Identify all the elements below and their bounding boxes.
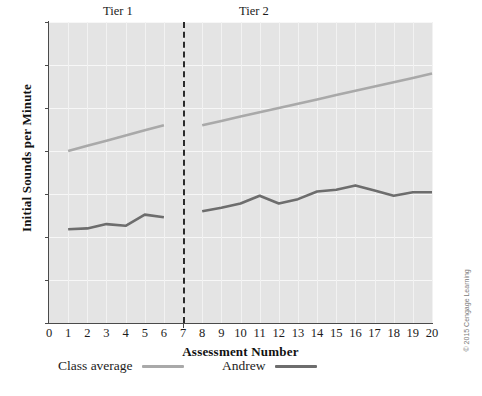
legend-label: Andrew (222, 358, 266, 374)
legend-label: Class average (58, 358, 133, 374)
y-tick-mark-15 (45, 194, 49, 195)
series-lines (49, 22, 432, 323)
series-line-class-average-tier-1 (68, 125, 164, 151)
x-tick-label-20: 20 (420, 327, 444, 340)
legend-item-andrew[interactable]: Andrew (222, 358, 317, 374)
x-tick-mark-7 (183, 324, 184, 328)
plot-area (49, 22, 432, 323)
y-axis-title: Initial Sounds per Minute (19, 38, 35, 278)
tier-label-1: Tier 1 (78, 4, 158, 19)
y-axis-line (48, 21, 49, 324)
chart-figure: Tier 1 Tier 2 05101520253035 01234567891… (0, 0, 482, 396)
x-axis-line (48, 323, 433, 324)
chart-legend: Class averageAndrew (0, 358, 482, 382)
y-tick-mark-10 (45, 237, 49, 238)
y-tick-mark-30 (45, 65, 49, 66)
tier-label-2: Tier 2 (214, 4, 294, 19)
phase-divider-line (183, 22, 185, 323)
series-line-class-average-tier-2 (202, 74, 432, 126)
y-tick-mark-35 (45, 22, 49, 23)
y-tick-mark-0 (45, 323, 49, 324)
legend-swatch (142, 365, 184, 368)
y-tick-mark-25 (45, 108, 49, 109)
gridline-x-20 (432, 22, 433, 323)
y-tick-mark-20 (45, 151, 49, 152)
series-line-andrew-tier-2 (202, 185, 432, 211)
legend-item-class-average[interactable]: Class average (58, 358, 184, 374)
y-tick-mark-5 (45, 280, 49, 281)
series-line-andrew-tier-1 (68, 215, 164, 230)
legend-swatch (275, 365, 317, 368)
copyright-credit: © 2015 Cengage Learning (463, 232, 470, 352)
